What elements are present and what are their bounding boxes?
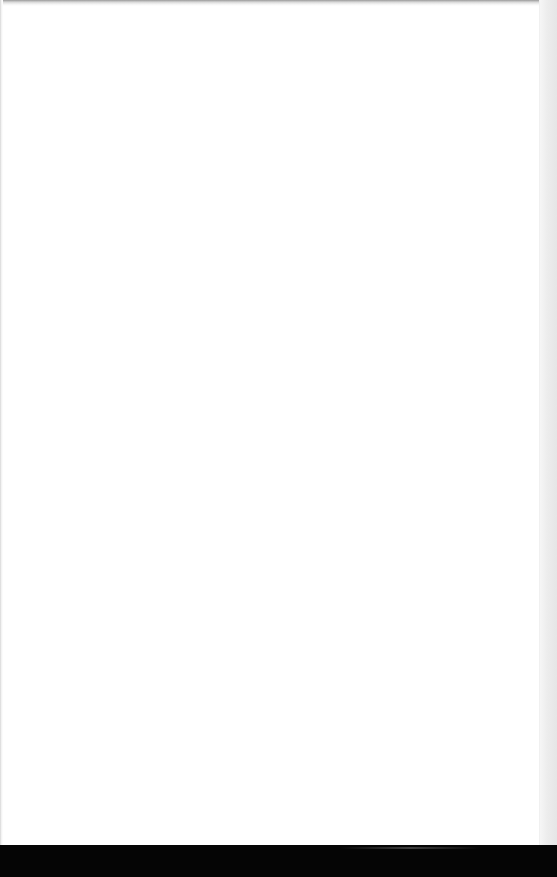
document-page xyxy=(0,0,557,877)
page-right-margin xyxy=(539,0,557,845)
bottom-bar-sheen xyxy=(340,847,480,849)
page-content-area xyxy=(3,6,539,845)
bottom-bar xyxy=(0,845,557,877)
